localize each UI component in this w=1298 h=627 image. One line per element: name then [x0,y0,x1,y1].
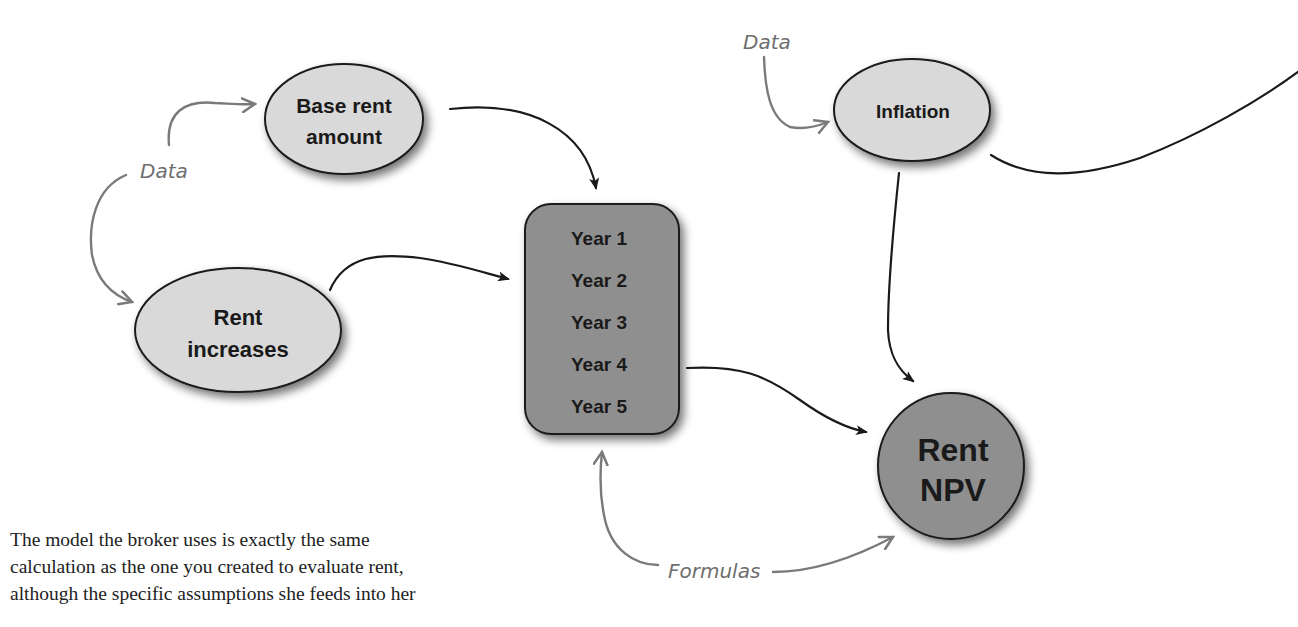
rent-increases-node [135,268,341,392]
inflation-to-npv-arrow [888,173,913,381]
caption-line-3: although the specific assumptions she fe… [10,580,570,607]
formulas-to-years-arrow [601,452,658,565]
years-to-npv-arrow [687,367,866,432]
base-rent-label-line2: amount [306,125,382,148]
data-to-rent-increases-arrow [91,175,132,302]
data-to-base-rent-arrow [169,103,255,145]
year-2-label: Year 2 [571,270,627,291]
year-1-label: Year 1 [571,228,627,249]
caption-line-2: calculation as the one you created to ev… [10,553,570,580]
formulas-to-npv-arrow [773,537,893,572]
year-3-label: Year 3 [571,312,627,333]
rent-npv-label-line1: Rent [917,432,988,468]
rent-increases-label-line2: increases [187,337,289,362]
base-rent-label-line1: Base rent [296,94,392,117]
rent-npv-label-line2: NPV [920,472,986,508]
data-to-inflation-arrow [764,57,828,128]
base-rent-node [265,64,423,174]
year-5-label: Year 5 [571,396,627,417]
data-annotation-top: Data [743,30,791,54]
rent-increases-to-years-arrow [330,256,508,290]
formulas-annotation: Formulas [668,559,760,583]
inflation-label: Inflation [876,101,950,122]
year-4-label: Year 4 [571,354,627,375]
caption-paragraph: The model the broker uses is exactly the… [10,526,570,607]
base-rent-to-years-arrow [450,107,596,188]
caption-line-1: The model the broker uses is exactly the… [10,526,570,553]
data-annotation-left: Data [140,159,188,183]
inflation-outgoing-line [991,72,1298,173]
rent-increases-label-line1: Rent [214,305,264,330]
